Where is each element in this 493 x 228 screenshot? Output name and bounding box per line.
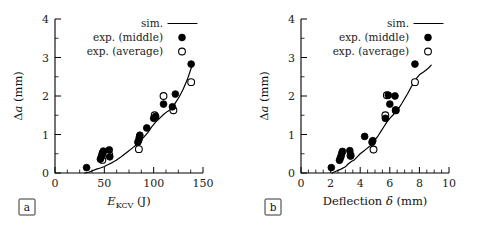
data-point-average bbox=[188, 79, 195, 86]
y-tick-label: 1 bbox=[42, 129, 49, 142]
x-tick-label: 100 bbox=[143, 177, 164, 190]
x-tick-label: 2 bbox=[327, 177, 334, 190]
data-point-middle bbox=[392, 107, 399, 114]
panel-a-legend: sim. exp. (middle) exp. (average) bbox=[87, 17, 197, 57]
y-tick-label: 1 bbox=[288, 129, 295, 142]
data-point-middle bbox=[392, 93, 399, 100]
data-point-average bbox=[160, 93, 167, 100]
data-point-middle bbox=[160, 101, 167, 108]
x-tick-label: 0 bbox=[298, 177, 305, 190]
panel-a-tag-label: a bbox=[24, 201, 30, 213]
data-point-middle bbox=[143, 125, 150, 132]
y-tick-label: 4 bbox=[288, 13, 295, 26]
panel-a-exp-middle-points bbox=[83, 61, 194, 171]
panel-b-exp-middle-points bbox=[328, 61, 418, 171]
y-tick-label: 3 bbox=[288, 52, 295, 65]
panel-b-tag-label: b bbox=[270, 201, 277, 213]
figure-two-panel-scatter: sim. exp. (middle) exp. (average) 050100… bbox=[0, 0, 493, 228]
panel-b-y-axis-label: Δa (mm) bbox=[257, 71, 271, 121]
panel-a-x-ticks bbox=[55, 167, 203, 173]
panel-a-exp-average-points bbox=[99, 79, 195, 164]
data-point-middle bbox=[188, 61, 195, 68]
panel-b-tag: b bbox=[265, 199, 281, 215]
legend-label-exp-average: exp. (average) bbox=[333, 45, 409, 57]
data-point-middle bbox=[386, 101, 393, 108]
x-tick-label: 8 bbox=[416, 177, 423, 190]
x-tick-label: 50 bbox=[97, 177, 111, 190]
data-point-middle bbox=[328, 164, 335, 171]
y-tick-label: 4 bbox=[42, 13, 49, 26]
panel-a-tag: a bbox=[19, 199, 35, 215]
x-tick-label: 6 bbox=[386, 177, 393, 190]
x-tick-label: 4 bbox=[357, 177, 364, 190]
data-point-average bbox=[412, 79, 419, 86]
y-tick-label: 0 bbox=[288, 167, 295, 180]
data-point-middle bbox=[385, 92, 392, 99]
legend-marker-open-circle bbox=[179, 48, 186, 55]
data-point-middle bbox=[412, 61, 419, 68]
legend-label-exp-average: exp. (average) bbox=[87, 45, 163, 57]
x-tick-label: 150 bbox=[193, 177, 214, 190]
y-tick-label: 2 bbox=[42, 90, 49, 103]
panel-b: sim. exp. (middle) exp. (average) 024681… bbox=[246, 0, 493, 228]
data-point-average bbox=[370, 146, 377, 153]
data-point-middle bbox=[361, 133, 368, 140]
legend-marker-filled-circle bbox=[179, 34, 186, 41]
x-tick-label: 10 bbox=[442, 177, 456, 190]
data-point-middle bbox=[382, 115, 389, 122]
data-point-average bbox=[135, 146, 142, 153]
data-point-middle bbox=[106, 147, 113, 154]
panel-b-x-axis-label: Deflection δ (mm) bbox=[323, 194, 428, 208]
data-point-middle bbox=[83, 164, 90, 171]
data-point-middle bbox=[172, 91, 179, 98]
data-point-middle bbox=[369, 137, 376, 144]
panel-a-x-axis-label: EKCV (J) bbox=[106, 194, 150, 210]
panel-a-x-tick-labels: 050100150 bbox=[52, 177, 214, 190]
y-tick-label: 0 bbox=[42, 167, 49, 180]
panel-b-y-tick-labels: 01234 bbox=[288, 13, 295, 180]
panel-b-legend: sim. exp. (middle) exp. (average) bbox=[333, 17, 443, 57]
data-point-middle bbox=[347, 153, 354, 160]
data-point-middle bbox=[106, 153, 113, 160]
panel-a-y-tick-labels: 01234 bbox=[42, 13, 49, 180]
panel-b-x-tick-labels: 0246810 bbox=[298, 177, 457, 190]
legend-marker-open-circle bbox=[425, 48, 432, 55]
data-point-middle bbox=[339, 148, 346, 155]
legend-label-sim: sim. bbox=[387, 17, 409, 29]
y-tick-label: 3 bbox=[42, 52, 49, 65]
panel-b-x-ticks bbox=[301, 167, 449, 173]
panel-b-y-ticks bbox=[301, 19, 307, 173]
data-point-middle bbox=[136, 132, 143, 139]
legend-label-sim: sim. bbox=[141, 17, 163, 29]
x-tick-label: 0 bbox=[52, 177, 59, 190]
legend-marker-filled-circle bbox=[425, 34, 432, 41]
data-point-middle bbox=[152, 113, 159, 120]
legend-label-exp-middle: exp. (middle) bbox=[93, 31, 163, 43]
panel-b-canvas: sim. exp. (middle) exp. (average) 024681… bbox=[246, 0, 493, 228]
y-tick-label: 2 bbox=[288, 90, 295, 103]
panel-a-y-ticks bbox=[55, 19, 61, 173]
panel-a-canvas: sim. exp. (middle) exp. (average) 050100… bbox=[0, 0, 247, 228]
panel-a: sim. exp. (middle) exp. (average) 050100… bbox=[0, 0, 247, 228]
legend-label-exp-middle: exp. (middle) bbox=[339, 31, 409, 43]
data-point-middle bbox=[169, 103, 176, 110]
panel-a-y-axis-label: Δa (mm) bbox=[11, 71, 25, 121]
